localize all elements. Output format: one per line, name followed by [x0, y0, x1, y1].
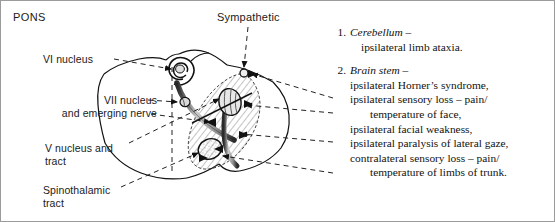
v-nucleus-label-line1: V nucleus and: [45, 142, 113, 154]
list-item-dash: –: [406, 26, 412, 38]
list-item-heading: Cerebellum: [350, 26, 403, 38]
vi-nucleus-spiral: [169, 53, 209, 85]
list-item-line: ipsilateral limb ataxia.: [350, 40, 549, 55]
list-item-number: 1.: [331, 25, 350, 54]
list-item-number: 2.: [331, 63, 350, 180]
v-nucleus-label: V nucleus and tract: [45, 142, 113, 168]
leader-sympathetic: [244, 27, 248, 67]
vii-nucleus-label-line2: and emerging nerve: [62, 107, 157, 119]
list-item: 2. Brain stem – ipsilateral Horner’s syn…: [331, 63, 549, 180]
list-item-line: temperature of face,: [350, 107, 549, 122]
list-item-line: contralateral sensory loss – pain/: [350, 151, 549, 166]
vii-nucleus-label: VII nucleus and emerging nerve: [17, 94, 157, 120]
list-item-body: Cerebellum – ipsilateral limb ataxia.: [350, 25, 549, 54]
pons-region-label: PONS: [13, 11, 46, 24]
sympathetic-dot: [240, 69, 248, 77]
list-item-heading: Brain stem: [350, 64, 400, 76]
figure-container: PONS Sympathetic VI nucleus VII nucleus …: [0, 0, 555, 222]
list-item-body: Brain stem – ipsilateral Horner’s syndro…: [350, 63, 549, 180]
leader-spinothalamic: [121, 153, 198, 187]
list-item: 1. Cerebellum – ipsilateral limb ataxia.: [331, 25, 549, 54]
clinical-features-list: 1. Cerebellum – ipsilateral limb ataxia.…: [331, 25, 549, 182]
list-item-line: ipsilateral facial weakness,: [350, 122, 549, 137]
vi-nucleus-label: VI nucleus: [43, 53, 93, 66]
list-item-dash: –: [403, 64, 409, 76]
sympathetic-label: Sympathetic: [217, 11, 280, 24]
v-nucleus-label-line2: tract: [45, 155, 66, 167]
list-gap: [331, 56, 549, 63]
list-item-line: ipsilateral sensory loss – pain/: [350, 92, 549, 107]
spinothalamic-label: Spinothalamic tract: [43, 184, 110, 210]
vii-nucleus-label-line1: VII nucleus: [104, 94, 157, 106]
spinothalamic-label-line1: Spinothalamic: [43, 184, 110, 196]
list-item-line: ipsilateral Horner’s syndrome,: [350, 78, 549, 93]
list-item-line: ipsilateral paralysis of lateral gaze,: [350, 136, 549, 151]
spinothalamic-label-line2: tract: [43, 197, 64, 209]
list-item-line: temperature of limbs of trunk.: [350, 165, 549, 180]
